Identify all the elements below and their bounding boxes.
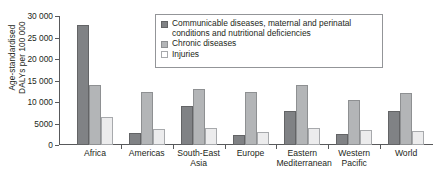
- legend-entry-label-line: conditions and nutritional deficiencies: [172, 29, 351, 39]
- x-axis-category-label: Americas: [121, 149, 173, 159]
- legend-entry-label-line: Chronic diseases: [172, 39, 236, 49]
- x-axis-category-label-line: Pacific: [328, 159, 380, 169]
- chart-legend: Communicable diseases, maternal and peri…: [155, 14, 383, 68]
- x-axis-category-label-line: Americas: [121, 149, 173, 159]
- bar-group: [129, 92, 165, 145]
- bar[interactable]: [348, 100, 360, 145]
- y-axis-tick: [55, 38, 59, 39]
- bar-group: [284, 85, 320, 145]
- bar[interactable]: [181, 106, 193, 145]
- bar[interactable]: [308, 128, 320, 145]
- legend-entry-label: Injuries: [172, 50, 199, 60]
- bar[interactable]: [153, 129, 165, 145]
- legend-entry[interactable]: Injuries: [161, 50, 377, 60]
- x-axis-category-label: World: [380, 149, 432, 159]
- bar[interactable]: [388, 111, 400, 145]
- y-axis-tick: [55, 59, 59, 60]
- y-axis-tick: [55, 124, 59, 125]
- x-axis-category-label: WesternPacific: [328, 149, 380, 169]
- bar-group: [233, 92, 269, 145]
- bar[interactable]: [336, 134, 348, 145]
- bar[interactable]: [412, 131, 424, 145]
- x-axis-category-label: EasternMediterranean: [276, 149, 328, 169]
- bar-group: [388, 93, 424, 145]
- bar-group: [181, 89, 217, 145]
- y-axis-tick-label: 10 000: [27, 98, 53, 106]
- legend-swatch-icon: [161, 51, 168, 58]
- bar[interactable]: [233, 135, 245, 145]
- y-axis-tick-label: 0: [48, 141, 53, 149]
- y-axis-line: [59, 16, 60, 145]
- x-axis-category-label-line: Africa: [69, 149, 121, 159]
- y-axis-title-line-1: Age-standardised: [8, 0, 18, 123]
- y-axis-tick-label: 30 000: [27, 12, 53, 20]
- x-axis-category-label: South-EastAsia: [173, 149, 225, 169]
- legend-swatch-icon: [161, 41, 168, 48]
- bar[interactable]: [77, 25, 89, 145]
- bar[interactable]: [360, 130, 372, 145]
- legend-entry[interactable]: Communicable diseases, maternal and peri…: [161, 19, 377, 38]
- y-axis-title: Age-standardised DALYs per 100 000: [8, 0, 27, 123]
- bar[interactable]: [284, 111, 296, 145]
- bar[interactable]: [141, 92, 153, 145]
- bar[interactable]: [129, 133, 141, 145]
- bar[interactable]: [101, 117, 113, 145]
- legend-entry-label-line: Injuries: [172, 50, 199, 60]
- bar[interactable]: [89, 85, 101, 145]
- y-axis-tick: [55, 102, 59, 103]
- legend-entry[interactable]: Chronic diseases: [161, 39, 377, 49]
- y-axis-tick-label: 20 000: [27, 55, 53, 63]
- legend-swatch-icon: [161, 21, 168, 28]
- legend-entry-label: Communicable diseases, maternal and peri…: [172, 19, 351, 38]
- bar[interactable]: [400, 93, 412, 145]
- x-axis-category-label: Europe: [225, 149, 277, 159]
- bar[interactable]: [257, 132, 269, 145]
- x-axis-category-label-line: World: [380, 149, 432, 159]
- y-axis-tick: [55, 145, 59, 146]
- y-axis-tick-label: 5000: [34, 119, 53, 127]
- y-axis-tick: [55, 81, 59, 82]
- legend-entry-label: Chronic diseases: [172, 39, 236, 49]
- legend-entry-list: Communicable diseases, maternal and peri…: [161, 19, 377, 59]
- x-axis-category-label: Africa: [69, 149, 121, 159]
- bar[interactable]: [296, 85, 308, 145]
- y-axis-tick-label: 15 000: [27, 76, 53, 84]
- y-axis-tick: [55, 16, 59, 17]
- x-axis-category-label-line: Europe: [225, 149, 277, 159]
- bar-group: [336, 100, 372, 145]
- bar-group: [77, 25, 113, 145]
- y-axis-tick-label: 25 000: [27, 33, 53, 41]
- x-axis-category-label-line: Mediterranean: [276, 159, 328, 169]
- bar[interactable]: [205, 128, 217, 145]
- bar[interactable]: [193, 89, 205, 145]
- x-axis-category-label-line: Asia: [173, 159, 225, 169]
- y-axis-title-line-2: DALYs per 100 000: [18, 0, 28, 123]
- bar[interactable]: [245, 92, 257, 145]
